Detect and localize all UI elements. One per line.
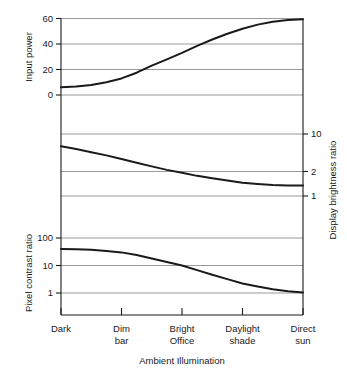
ticklabel-pc-10: 10 [42,260,53,271]
ticklabel-db-1: 1 [311,190,316,201]
panel-input-power: 60 40 20 0 Input power [23,13,303,101]
xlabel-dark-line1: Dark [51,323,71,334]
xlabel-direct-sun-line1: Direct [291,323,316,334]
curve-display-brightness-ratio [61,146,303,185]
xlabel-dim-bar-line1: Dim [113,323,130,334]
panel-pixel-contrast-ratio: 100 10 1 Pixel contrast ratio [23,232,303,312]
xlabel-bright-office-line1: Bright [170,323,195,334]
ticklabel-db-2: 2 [311,166,316,177]
gridlines-display-brightness [61,134,303,196]
xlabel-direct-sun-line2: sun [295,335,310,346]
chart-canvas: 60 40 20 0 Input power 10 2 1 Display br… [0,0,347,380]
axis-title-ambient-illumination: Ambient Illumination [139,355,225,366]
xlabel-bright-office-line2: Office [170,335,195,346]
ticklabel-pc-100: 100 [37,232,53,243]
axis-title-input-power: Input power [23,32,34,82]
xlabel-daylight-shade-line1: Daylight [225,323,260,334]
xlabel-dim-bar-line2: bar [115,335,129,346]
ticklabel-ip-40: 40 [42,38,53,49]
chart-figure: 60 40 20 0 Input power 10 2 1 Display br… [0,0,347,380]
x-axis-labels: Dark Dim bar Bright Office Daylight shad… [51,323,316,346]
axis-title-pixel-contrast-ratio: Pixel contrast ratio [23,234,34,312]
ticklabel-db-10: 10 [311,128,322,139]
x-axis-ticks [61,308,303,315]
axis-title-display-brightness-ratio: Display brightness ratio [327,141,338,240]
ticks-input-power [56,19,61,96]
ticklabel-ip-60: 60 [42,13,53,24]
ticks-pixel-contrast [56,238,61,293]
panel-display-brightness-ratio: 10 2 1 Display brightness ratio [61,128,338,239]
ticks-display-brightness [303,134,308,196]
curve-input-power [61,19,303,87]
ticklabel-ip-20: 20 [42,64,53,75]
ticklabel-ip-0: 0 [48,89,53,100]
curve-pixel-contrast-ratio [61,249,303,292]
ticklabel-pc-1: 1 [48,287,53,298]
xlabel-daylight-shade-line2: shade [230,335,256,346]
